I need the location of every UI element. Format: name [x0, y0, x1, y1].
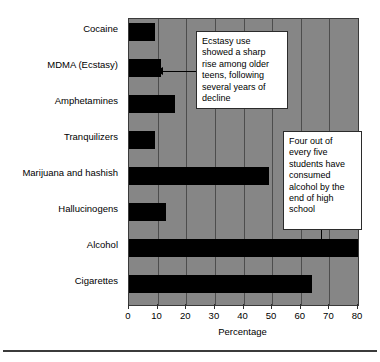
annotation-ecstasy: Ecstasy use showed a sharp rise among ol… [196, 31, 288, 109]
tick-label-20: 20 [170, 310, 200, 321]
tick-mark-40 [243, 304, 244, 309]
bar-hallucinogens [129, 203, 166, 221]
tick-mark-30 [214, 304, 215, 309]
x-axis-title: Percentage [128, 326, 357, 337]
bar-marijuana [129, 167, 269, 185]
bottom-divider [3, 350, 377, 352]
annotation-alcohol: Four out of every five students have con… [283, 131, 362, 230]
bar-chart-figure: Cocaine MDMA (Ecstasy) Amphetamines Tran… [0, 0, 380, 362]
category-label-amphetamines: Amphetamines [0, 95, 118, 106]
tick-label-50: 50 [256, 310, 286, 321]
annotation-arrow-line-ecstasy [162, 71, 196, 72]
bar-amphetamines [129, 95, 175, 113]
tick-mark-10 [157, 304, 158, 309]
tick-mark-70 [328, 304, 329, 309]
tick-mark-50 [271, 304, 272, 309]
gridline-20 [186, 19, 187, 305]
bar-cocaine [129, 23, 155, 41]
arrow-down-icon [318, 245, 326, 252]
bar-tranquilizers [129, 131, 155, 149]
tick-mark-60 [300, 304, 301, 309]
category-axis-labels: Cocaine MDMA (Ecstasy) Amphetamines Tran… [0, 18, 122, 304]
tick-label-10: 10 [142, 310, 172, 321]
category-label-marijuana: Marijuana and hashish [0, 167, 118, 178]
tick-label-80: 80 [342, 310, 372, 321]
category-label-cocaine: Cocaine [0, 23, 118, 34]
category-label-hallucinogens: Hallucinogens [0, 203, 118, 214]
tick-label-60: 60 [285, 310, 315, 321]
bar-cigarettes [129, 275, 312, 293]
tick-mark-20 [185, 304, 186, 309]
arrow-left-icon [156, 67, 163, 75]
category-label-mdma: MDMA (Ecstasy) [0, 59, 118, 70]
tick-label-70: 70 [313, 310, 343, 321]
tick-label-0: 0 [113, 310, 143, 321]
tick-label-30: 30 [199, 310, 229, 321]
category-label-cigarettes: Cigarettes [0, 275, 118, 286]
tick-label-40: 40 [228, 310, 258, 321]
tick-mark-0 [128, 304, 129, 309]
category-label-alcohol: Alcohol [0, 239, 118, 250]
category-label-tranquilizers: Tranquilizers [0, 131, 118, 142]
tick-mark-80 [357, 304, 358, 309]
